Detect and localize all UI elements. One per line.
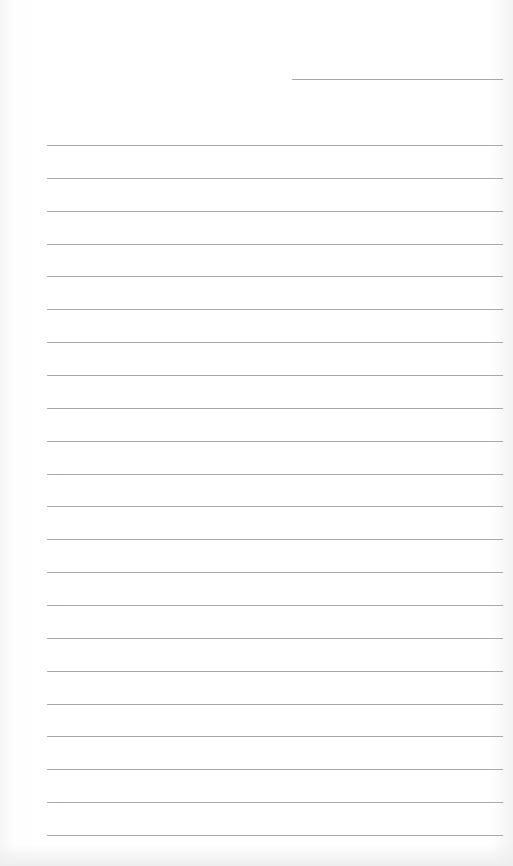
page-edge-shadow xyxy=(0,844,513,866)
ruled-line xyxy=(47,244,503,245)
lined-paper-page xyxy=(0,0,513,866)
ruled-line xyxy=(47,638,503,639)
ruled-line xyxy=(47,178,503,179)
ruled-line xyxy=(47,276,503,277)
ruled-line xyxy=(47,539,503,540)
ruled-line xyxy=(47,342,503,343)
ruled-line xyxy=(47,375,503,376)
ruled-line xyxy=(47,441,503,442)
ruled-line xyxy=(47,704,503,705)
ruled-line xyxy=(47,211,503,212)
header-date-line xyxy=(292,79,503,80)
ruled-line xyxy=(47,506,503,507)
ruled-line xyxy=(47,145,503,146)
ruled-line xyxy=(47,769,503,770)
ruled-line xyxy=(47,802,503,803)
ruled-line xyxy=(47,835,503,836)
ruled-line xyxy=(47,605,503,606)
ruled-line xyxy=(47,572,503,573)
ruled-line xyxy=(47,736,503,737)
ruled-line xyxy=(47,309,503,310)
ruled-line xyxy=(47,671,503,672)
ruled-line xyxy=(47,474,503,475)
ruled-line xyxy=(47,408,503,409)
